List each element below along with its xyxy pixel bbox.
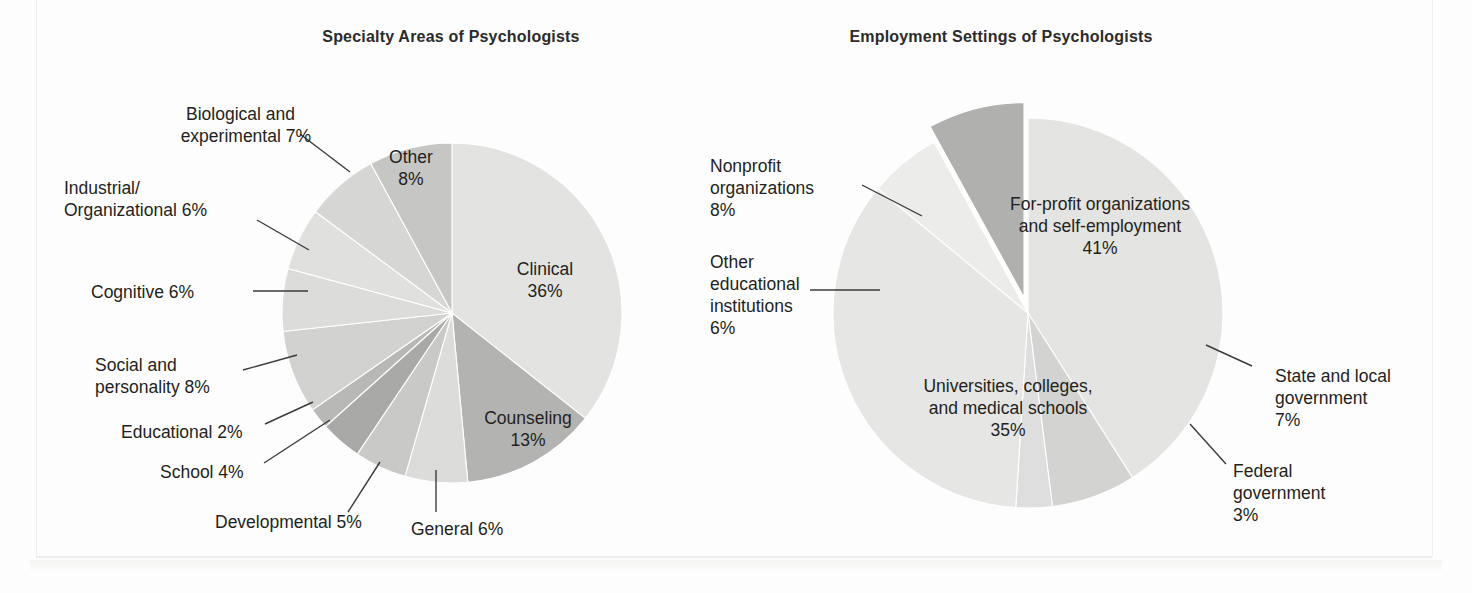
callout-nonprofit-line3: 8% xyxy=(710,200,735,220)
callout-nonprofit-line2: organizations xyxy=(710,178,814,198)
pie-slices-employment xyxy=(833,103,1223,508)
callout-other-educational-line4: 6% xyxy=(710,318,735,338)
pie-chart-employment-settings: Nonprofit organizations 8% Other educati… xyxy=(0,0,1472,593)
inside-forprofit-line1: For-profit organizations xyxy=(1010,194,1190,214)
inside-universities-line1: Universities, colleges, xyxy=(923,376,1092,396)
leader-federal xyxy=(1190,424,1226,464)
inside-forprofit-line2: and self-employment xyxy=(1019,216,1182,236)
callout-state-local-line2: government xyxy=(1275,388,1368,408)
callout-state-local-line3: 7% xyxy=(1275,410,1300,430)
callout-other-educational-line3: institutions xyxy=(710,296,793,316)
callout-state-local-line1: State and local xyxy=(1275,366,1391,386)
callout-federal-line2: government xyxy=(1233,483,1326,503)
callout-federal-line1: Federal xyxy=(1233,461,1292,481)
callout-other-educational-line1: Other xyxy=(710,252,754,272)
inside-universities-line3: 35% xyxy=(990,420,1025,440)
callout-nonprofit-line1: Nonprofit xyxy=(710,156,781,176)
inside-universities-line2: and medical schools xyxy=(929,398,1088,418)
callout-other-educational-line2: educational xyxy=(710,274,800,294)
figure-page: Specialty Areas of Psychologists Employm… xyxy=(0,0,1472,593)
callout-federal-line3: 3% xyxy=(1233,505,1258,525)
inside-forprofit-line3: 41% xyxy=(1082,238,1117,258)
